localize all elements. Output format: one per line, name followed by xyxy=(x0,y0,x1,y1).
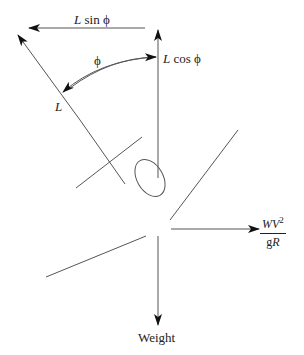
centrifugal-force-label: WV2 gR xyxy=(260,215,286,250)
left-wing-line xyxy=(46,236,146,277)
centrifugal-denominator: gR xyxy=(260,234,286,250)
phi-label: ϕ xyxy=(94,54,101,67)
lift-axis-line xyxy=(80,120,125,184)
centrifugal-num-exp: 2 xyxy=(279,215,284,225)
right-wing-line xyxy=(170,130,238,220)
centrifugal-numerator: WV2 xyxy=(260,215,286,234)
centrifugal-den-r: R xyxy=(272,235,279,249)
phi-angle-arc-start xyxy=(70,57,156,88)
aircraft-fuselage xyxy=(129,154,172,202)
wing-line xyxy=(76,137,142,188)
lift-arrow xyxy=(18,35,80,120)
l-sin-phi-func: sin ϕ xyxy=(81,12,110,27)
lift-label: L xyxy=(55,100,62,113)
banked-turn-force-diagram xyxy=(0,0,304,355)
phi-angle-arc xyxy=(63,57,156,92)
l-cos-phi-label: L cos ϕ xyxy=(163,52,201,65)
l-sin-phi-label: L sin ϕ xyxy=(74,13,110,26)
centrifugal-num-text: WV xyxy=(262,217,279,231)
weight-label: Weight xyxy=(138,331,175,344)
l-cos-phi-func: cos ϕ xyxy=(170,51,201,66)
